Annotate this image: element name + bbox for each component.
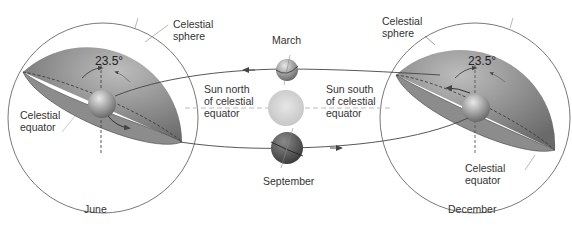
left-sphere-label: Celestial sphere <box>173 18 213 42</box>
sun-south-label: Sun south of celestial equator <box>326 83 376 119</box>
september-label: September <box>263 175 314 187</box>
right-equator-label: Celestial equator <box>465 162 505 186</box>
left-angle-label: 23.5° <box>95 55 123 67</box>
right-angle-label: 23.5° <box>468 55 496 67</box>
march-label: March <box>272 34 301 46</box>
sun-north-label: Sun north of celestial equator <box>204 83 254 119</box>
left-equator-label: Celestial equator <box>20 109 60 133</box>
center-bodies <box>268 55 304 168</box>
december-label: December <box>448 203 496 215</box>
sun <box>268 90 304 126</box>
right-sphere-label: Celestial sphere <box>382 15 422 39</box>
june-label: June <box>84 203 107 215</box>
